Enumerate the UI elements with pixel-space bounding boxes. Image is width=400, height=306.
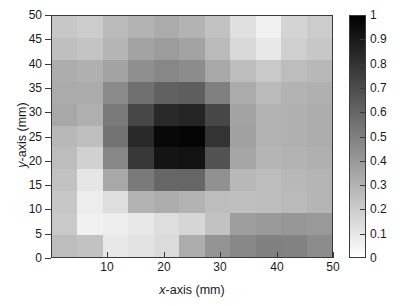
heatmap-cell: [77, 16, 102, 38]
heatmap-cell: [307, 104, 332, 126]
heatmap-cell: [77, 126, 102, 148]
heatmap-cell: [281, 235, 306, 257]
heatmap-cell: [256, 191, 281, 213]
heatmap-cell: [154, 82, 179, 104]
heatmap-cell: [307, 147, 332, 169]
heatmap-cell: [77, 191, 102, 213]
heatmap-cell: [179, 38, 204, 60]
heatmap-cell: [205, 169, 230, 191]
heatmap-cell: [281, 191, 306, 213]
colorbar-tick-label: 0.6: [370, 106, 387, 118]
y-axis-tick: [45, 234, 51, 235]
y-axis-tick: [45, 185, 51, 186]
heatmap-cell: [205, 191, 230, 213]
y-axis-tick-label: 5: [35, 228, 42, 240]
heatmap-cell: [281, 147, 306, 169]
y-axis-tick: [45, 15, 51, 16]
colorbar-tick: [360, 185, 365, 186]
y-axis-tick-label: 20: [29, 155, 42, 167]
heatmap-cell: [179, 126, 204, 148]
x-axis-tick: [333, 252, 334, 258]
colorbar-tick: [360, 39, 365, 40]
heatmap-cell: [307, 169, 332, 191]
heatmap-cell: [154, 104, 179, 126]
heatmap-cell: [77, 147, 102, 169]
heatmap-cell: [205, 60, 230, 82]
heatmap-cell: [230, 147, 255, 169]
heatmap-cell: [256, 147, 281, 169]
heatmap-cell: [281, 104, 306, 126]
heatmap-cell: [52, 213, 77, 235]
heatmap-cell: [179, 235, 204, 257]
heatmap-cell: [205, 147, 230, 169]
colorbar-tick-label: 0.5: [370, 131, 387, 143]
x-axis-tick-label: 50: [313, 261, 353, 273]
heatmap-cell: [230, 82, 255, 104]
heatmap-cell: [256, 213, 281, 235]
heatmap-cell: [128, 104, 153, 126]
heatmap-cell: [281, 126, 306, 148]
colorbar-tick-label: 0.7: [370, 82, 387, 94]
heatmap-cell: [281, 16, 306, 38]
heatmap-cell: [179, 82, 204, 104]
heatmap-cell: [205, 213, 230, 235]
heatmap-cell: [52, 82, 77, 104]
heatmap-cell: [230, 104, 255, 126]
heatmap-cell: [256, 82, 281, 104]
x-axis-tick: [107, 252, 108, 258]
colorbar-tick: [360, 137, 365, 138]
heatmap-cell: [77, 60, 102, 82]
heatmap-cell: [128, 147, 153, 169]
heatmap-cell: [103, 16, 128, 38]
y-axis-tick-label: 30: [29, 106, 42, 118]
x-axis-title: x-axis (mm): [51, 283, 333, 297]
heatmap-cell: [128, 169, 153, 191]
x-axis-tick: [220, 252, 221, 258]
heatmap-cell: [307, 191, 332, 213]
y-axis-tick: [45, 258, 51, 259]
heatmap-cell: [154, 147, 179, 169]
heatmap-cell: [154, 126, 179, 148]
heatmap-cell: [128, 60, 153, 82]
heatmap-cell: [77, 38, 102, 60]
heatmap-cell: [230, 38, 255, 60]
heatmap-cell: [307, 60, 332, 82]
heatmap-cell: [307, 38, 332, 60]
heatmap-cell: [230, 60, 255, 82]
heatmap-cell: [154, 191, 179, 213]
heatmap-cell: [77, 235, 102, 257]
heatmap-cell: [307, 126, 332, 148]
heatmap-cell: [256, 126, 281, 148]
colorbar-tick-label: 0.2: [370, 203, 387, 215]
y-axis-tick-label: 40: [29, 58, 42, 70]
heatmap-cell: [256, 60, 281, 82]
y-axis-tick: [45, 88, 51, 89]
heatmap-cell: [52, 60, 77, 82]
heatmap-cell: [103, 169, 128, 191]
heatmap-cell: [128, 235, 153, 257]
heatmap-cell: [52, 191, 77, 213]
colorbar-tick: [360, 161, 365, 162]
y-axis-tick: [45, 39, 51, 40]
heatmap-grid: [52, 16, 332, 257]
heatmap-cell: [128, 126, 153, 148]
x-axis-tick: [277, 252, 278, 258]
y-axis-tick: [45, 209, 51, 210]
colorbar-tick-label: 0.9: [370, 33, 387, 45]
colorbar-tick-label: 0.4: [370, 155, 387, 167]
heatmap-cell: [128, 16, 153, 38]
heatmap-cell: [307, 16, 332, 38]
heatmap-cell: [205, 82, 230, 104]
heatmap-cell: [128, 82, 153, 104]
heatmap-cell: [205, 235, 230, 257]
heatmap-cell: [103, 38, 128, 60]
heatmap-cell: [230, 213, 255, 235]
heatmap-cell: [179, 60, 204, 82]
y-axis-title-rest: -axis (mm): [15, 102, 29, 161]
y-axis-tick-label: 10: [29, 203, 42, 215]
heatmap-cell: [230, 16, 255, 38]
y-axis-title-symbol: y: [15, 161, 29, 167]
heatmap-cell: [256, 38, 281, 60]
y-axis-tick-label: 45: [29, 33, 42, 45]
heatmap-cell: [154, 38, 179, 60]
